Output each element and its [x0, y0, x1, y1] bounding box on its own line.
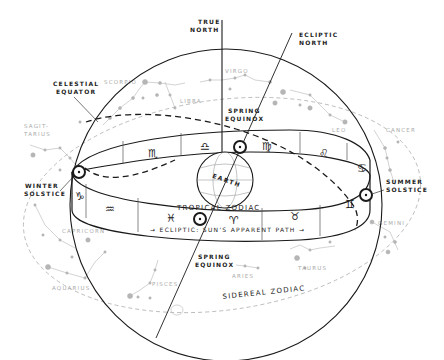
constellation-capricorn: CAPRICORN: [62, 228, 105, 234]
constellation-sagittarius-1: SAGIT-: [24, 123, 49, 129]
label-ecliptic-north-1: ECLIPTIC: [299, 31, 338, 38]
sign-leo: ♌: [319, 147, 329, 160]
constellation-sagittarius-2: TARIUS: [23, 131, 51, 137]
constellation-leo: LEO: [332, 127, 346, 133]
constellation-aquarius: AQUARIUS: [52, 285, 90, 291]
sun-spring-equinox-top: [234, 141, 246, 153]
label-ecliptic-north-2: NORTH: [299, 39, 329, 46]
sign-cancer: ♋: [357, 162, 367, 175]
sign-pisces: ♓: [166, 212, 176, 225]
label-true-north-2: NORTH: [190, 26, 220, 33]
sign-capricorn: ♑: [75, 190, 85, 203]
label-winter-solstice-2: SOLSTICE: [24, 190, 66, 197]
constellation-gemini: GEMINI: [378, 220, 405, 226]
constellation-pisces: PISCES: [152, 281, 178, 287]
label-summer-solstice-2: SOLSTICE: [386, 186, 428, 193]
label-celestial-equator-1: CELESTIAL: [53, 80, 99, 87]
label-spring-equinox-top-2: EQUINOX: [225, 115, 264, 122]
sign-gemini: ♊: [345, 198, 355, 211]
label-celestial-equator-2: EQUATOR: [56, 88, 96, 95]
constellation-taurus: TAURUS: [297, 265, 327, 271]
constellation-libra: LIBRA: [180, 98, 202, 104]
label-spring-equinox-bottom-2: EQUINOX: [195, 261, 234, 268]
label-spring-equinox-top-1: SPRING: [228, 107, 261, 114]
sun-winter-solstice: [73, 166, 85, 178]
earth: EARTH: [197, 152, 253, 208]
label-tropical-zodiac: TROPICAL ZODIAC: [176, 204, 261, 212]
label-sidereal-zodiac: SIDEREAL ZODIAC: [222, 284, 306, 301]
sign-virgo: ♍: [262, 140, 272, 153]
label-summer-solstice-1: SUMMER: [386, 178, 423, 185]
label-true-north-1: TRUE: [198, 18, 220, 25]
constellation-virgo: VIRGO: [225, 68, 249, 74]
sun-summer-solstice: [360, 189, 372, 201]
celestial-sphere-diagram: SCORPIO LIBRA VIRGO LEO CANCER GEMINI TA…: [0, 0, 444, 360]
sign-taurus: ♉: [290, 210, 300, 223]
sign-scorpio: ♏: [148, 147, 158, 160]
label-ecliptic-path: → ECLIPTIC: SUN'S APPARENT PATH →: [150, 226, 305, 233]
constellation-cancer: CANCER: [386, 127, 416, 133]
label-winter-solstice-1: WINTER: [25, 182, 59, 189]
label-spring-equinox-bottom-1: SPRING: [198, 253, 231, 260]
sign-libra: ♎: [200, 140, 210, 153]
sign-aquarius: ♒: [105, 203, 115, 216]
sun-spring-equinox-bottom: [194, 213, 206, 225]
constellation-aries: ARIES: [232, 273, 254, 279]
